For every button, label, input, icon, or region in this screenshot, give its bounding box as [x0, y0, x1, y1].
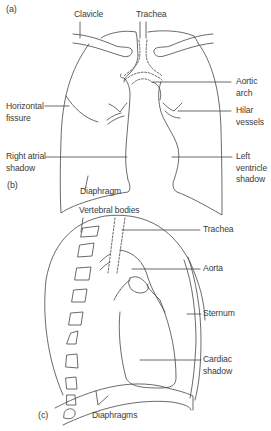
label-left-ventricle-shadow: Left ventricle shadow	[236, 151, 267, 186]
label-sternum: Sternum	[203, 308, 235, 320]
label-cardiac-shadow: Cardiac shadow	[203, 354, 232, 377]
hilar-vessels-marks	[107, 103, 182, 124]
label-trachea-lateral: Trachea	[203, 224, 234, 236]
label-vertebral-bodies: Vertebral bodies	[79, 205, 140, 217]
label-clavicle: Clavicle	[74, 9, 103, 21]
label-horizontal-fissure: Horizontal fissure	[6, 101, 44, 124]
panel-label-a: (a)	[6, 4, 17, 16]
aortic-knob	[152, 82, 161, 100]
label-trachea-frontal: Trachea	[136, 9, 167, 21]
vertebral-bodies-shapes	[64, 226, 99, 419]
panel-label-c: (c)	[38, 410, 48, 422]
aorta-heart-lateral	[100, 250, 176, 388]
label-hilar-vessels: Hilar vessels	[236, 105, 264, 128]
label-diaphragm: Diaphragm	[80, 186, 121, 198]
frontal-leader-lines	[45, 22, 232, 190]
label-aortic-arch: Aortic arch	[236, 76, 257, 99]
clavicles	[73, 34, 213, 57]
lateral-leader-lines	[81, 218, 201, 405]
panel-label-b: (b)	[7, 180, 18, 192]
label-right-atrial-shadow: Right atrial shadow	[6, 151, 46, 174]
label-aorta: Aorta	[203, 263, 223, 275]
lateral-chest-outline	[45, 215, 205, 425]
trachea-lateral	[108, 218, 125, 273]
label-diaphragms: Diaphragms	[92, 410, 137, 422]
horizontal-fissure	[66, 96, 98, 122]
